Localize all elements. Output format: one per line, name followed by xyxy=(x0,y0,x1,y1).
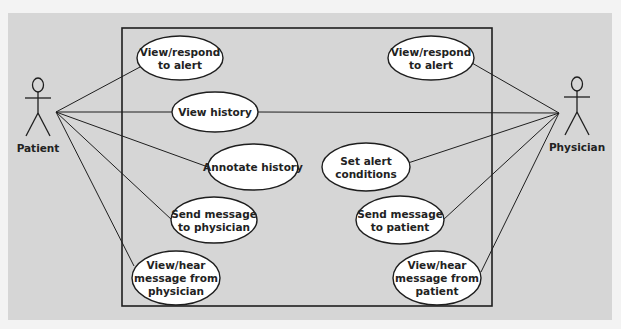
actor-label: Physician xyxy=(549,141,605,153)
use-case-label: physician xyxy=(148,285,204,297)
use-case-label: View/hear xyxy=(407,259,467,271)
use-case-label: to physician xyxy=(178,221,250,233)
use-case-label: View/respond xyxy=(140,46,220,58)
use-case-diagram: View/respondto alertView historyAnnotate… xyxy=(0,0,621,329)
use-case-label: Send message xyxy=(171,208,257,220)
use-case-label: View history xyxy=(178,106,252,118)
use-case-uc7[interactable]: Set alertconditions xyxy=(322,143,410,191)
use-case-uc9[interactable]: View/hearmessage frompatient xyxy=(393,251,481,305)
diagram-panel xyxy=(8,13,612,320)
use-case-label: conditions xyxy=(335,168,397,180)
use-case-uc1[interactable]: View/respondto alert xyxy=(137,36,223,80)
use-case-label: Send message xyxy=(357,208,443,220)
use-case-uc5[interactable]: View/hearmessage fromphysician xyxy=(132,251,220,305)
use-case-label: Annotate history xyxy=(203,161,303,173)
use-case-uc2[interactable]: View history xyxy=(172,92,258,132)
use-case-label: to alert xyxy=(158,59,202,71)
use-case-uc6[interactable]: View/respondto alert xyxy=(388,36,474,80)
use-case-label: View/hear xyxy=(146,259,206,271)
use-case-label: Set alert xyxy=(340,155,391,167)
use-case-uc4[interactable]: Send messageto physician xyxy=(171,197,257,243)
use-case-label: View/respond xyxy=(391,46,471,58)
use-case-label: patient xyxy=(416,285,459,297)
use-case-label: to patient xyxy=(371,221,430,233)
use-case-label: message from xyxy=(395,272,479,284)
use-case-label: to alert xyxy=(409,59,453,71)
use-case-uc8[interactable]: Send messageto patient xyxy=(356,196,444,244)
actor-label: Patient xyxy=(17,142,60,154)
use-case-label: message from xyxy=(134,272,218,284)
